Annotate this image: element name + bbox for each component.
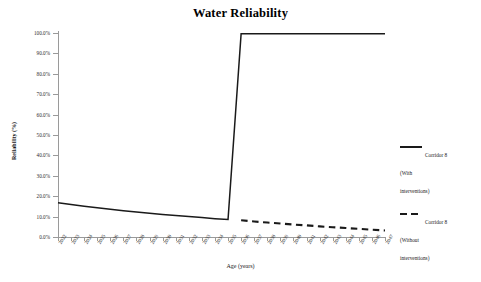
y-axis-tick-label: 100.0% <box>34 30 53 36</box>
x-axis-tick-label: 2027 <box>122 233 132 245</box>
y-axis-tick <box>53 135 58 136</box>
legend-label: Corridor 8 (Without interventions) <box>400 219 447 261</box>
x-axis-tick-label: 2038 <box>266 233 276 245</box>
y-axis-tick <box>53 115 58 116</box>
x-axis-tick-label: 2024 <box>83 233 93 245</box>
y-axis-tick <box>53 53 58 54</box>
x-axis-tick-label: 2042 <box>319 233 329 245</box>
legend-swatch-solid-line-icon <box>400 146 422 148</box>
x-axis-tick-label: 2033 <box>201 233 211 245</box>
y-axis-tick-label: 70.0% <box>37 91 53 97</box>
legend-item-with-interventions: Corridor 8 (With interventions) <box>400 143 480 197</box>
x-axis-tick-label: 2046 <box>371 233 381 245</box>
y-axis-tick <box>53 196 58 197</box>
y-axis-tick <box>53 217 58 218</box>
series-line <box>241 220 385 230</box>
x-axis-tick-label: 2029 <box>149 233 159 245</box>
y-axis-tick-label: 10.0% <box>37 214 53 220</box>
x-axis-tick-label: 2026 <box>109 233 119 245</box>
x-axis-tick-label: 2023 <box>70 233 80 245</box>
x-axis-tick-label: 2035 <box>227 233 237 245</box>
x-axis-tick-label: 2031 <box>175 233 185 245</box>
x-axis-tick-label: 2036 <box>240 233 250 245</box>
legend-swatch-dashed-line-icon <box>400 213 422 215</box>
y-axis-tick-label: 0.0% <box>39 234 53 240</box>
chart-title: Water Reliability <box>0 6 481 21</box>
y-axis-tick-label: 80.0% <box>37 71 53 77</box>
y-axis-tick-label: 40.0% <box>37 152 53 158</box>
x-axis-tick-label: 2047 <box>384 233 394 245</box>
chart-legend: Corridor 8 (With interventions) Corridor… <box>400 143 480 277</box>
y-axis-tick-label: 90.0% <box>37 50 53 56</box>
x-axis-tick-label: 2039 <box>279 233 289 245</box>
y-axis-tick-label: 50.0% <box>37 132 53 138</box>
y-axis-tick <box>53 94 58 95</box>
x-axis-tick-label: 2034 <box>214 233 224 245</box>
x-axis-tick-label: 2030 <box>162 233 172 245</box>
series-line <box>58 34 385 220</box>
x-axis-tick-label: 2032 <box>188 233 198 245</box>
legend-label: Corridor 8 (With interventions) <box>400 152 447 194</box>
y-axis-tick <box>53 176 58 177</box>
x-axis-tick-label: 2043 <box>332 233 342 245</box>
legend-item-without-interventions: Corridor 8 (Without interventions) <box>400 210 480 264</box>
y-axis-line <box>58 31 59 239</box>
x-axis-tick-label: 2037 <box>253 233 263 245</box>
y-axis-tick <box>53 155 58 156</box>
y-axis-tick <box>53 33 58 34</box>
y-axis-tick-label: 30.0% <box>37 173 53 179</box>
y-axis-title: Reliability (%) <box>11 122 17 160</box>
x-axis-tick-label: 2041 <box>306 233 316 245</box>
x-axis-tick-label: 2040 <box>292 233 302 245</box>
x-axis-tick-label: 2045 <box>358 233 368 245</box>
x-axis-tick-label: 2025 <box>96 233 106 245</box>
water-reliability-chart: Water Reliability Reliability (%) Age (y… <box>0 0 481 282</box>
y-axis-tick-label: 60.0% <box>37 112 53 118</box>
y-axis-tick <box>53 74 58 75</box>
y-axis-tick-label: 20.0% <box>37 193 53 199</box>
x-axis-tick-label: 2044 <box>345 233 355 245</box>
x-axis-tick-label: 2028 <box>135 233 145 245</box>
